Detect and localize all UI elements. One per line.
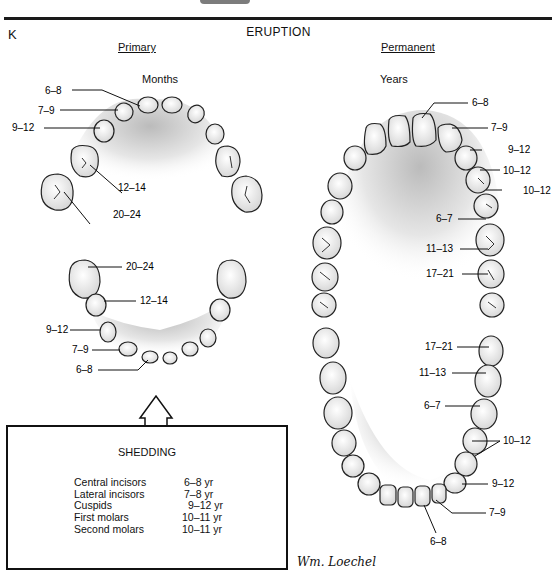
shedding-row: First molars 10–11 yr — [74, 511, 274, 523]
primary-upper-arch — [41, 90, 262, 224]
pl-label-6-8: 6–8 — [76, 364, 93, 375]
shedding-tooth: Cuspids — [74, 499, 112, 511]
pu-label-20-24: 20–24 — [113, 209, 141, 220]
arrow-up-icon — [140, 396, 172, 427]
pu2-label-9-12: 9–12 — [508, 144, 531, 155]
pl2-label-9-12: 9–12 — [492, 478, 515, 489]
shedding-age: 9–12 yr — [188, 499, 223, 511]
permanent-upper-arch — [312, 103, 504, 317]
pl-label-7-9: 7–9 — [72, 344, 89, 355]
pl-label-12-14: 12–14 — [140, 295, 168, 306]
permanent-lower-arch — [313, 328, 503, 533]
shedding-tooth: Central incisors — [74, 476, 146, 488]
pu-label-6-8: 6–8 — [45, 85, 62, 96]
shedding-row: Central incisors 6–8 yr — [74, 476, 274, 488]
pu2-label-10-12b: 10–12 — [523, 185, 551, 196]
shedding-tooth: Second molars — [74, 523, 144, 535]
pu2-label-6-8: 6–8 — [472, 97, 489, 108]
pl2-label-6-8: 6–8 — [430, 536, 447, 547]
pu-label-12-14: 12–14 — [118, 182, 146, 193]
shedding-title: SHEDDING — [8, 446, 286, 458]
pl2-label-7-9: 7–9 — [489, 507, 506, 518]
pl2-label-6-7: 6–7 — [424, 400, 441, 411]
pu-label-9-12: 9–12 — [12, 122, 35, 133]
pu2-label-17-21: 17–21 — [426, 268, 454, 279]
pl2-label-11-13: 11–13 — [419, 367, 447, 378]
pl2-label-17-21: 17–21 — [425, 341, 453, 352]
pu2-label-11-13: 11–13 — [426, 243, 454, 254]
shedding-box: SHEDDING Central incisors 6–8 yr Lateral… — [6, 425, 288, 570]
pl-label-20-24: 20–24 — [126, 261, 154, 272]
shedding-age: 6–8 yr — [184, 476, 213, 488]
shedding-age: 10–11 yr — [182, 511, 222, 523]
pu2-label-10-12a: 10–12 — [503, 165, 531, 176]
shedding-row: Second molars 10–11 yr — [74, 523, 274, 535]
artist-signature: Wm. Loechel — [297, 555, 376, 569]
primary-lower-arch — [69, 260, 246, 370]
pl2-label-10-12: 10–12 — [503, 435, 531, 446]
pu-label-7-9: 7–9 — [38, 105, 55, 116]
pu2-label-6-7: 6–7 — [436, 213, 453, 224]
pl-label-9-12: 9–12 — [46, 324, 69, 335]
shedding-tooth: First molars — [74, 511, 129, 523]
shedding-row: Cuspids 9–12 yr — [74, 499, 274, 511]
shedding-age: 10–11 yr — [182, 523, 222, 535]
pu2-label-7-9: 7–9 — [491, 122, 508, 133]
